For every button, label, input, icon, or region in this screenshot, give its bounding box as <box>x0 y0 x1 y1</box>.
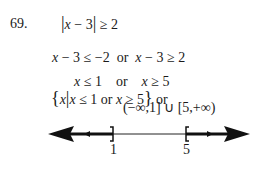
small-arrow-right-icon <box>207 131 213 137</box>
tick-label-5: 5 <box>183 143 190 157</box>
tick-label-1: 1 <box>110 143 117 157</box>
small-arrow-left-icon <box>84 131 90 137</box>
number-line <box>0 0 264 187</box>
